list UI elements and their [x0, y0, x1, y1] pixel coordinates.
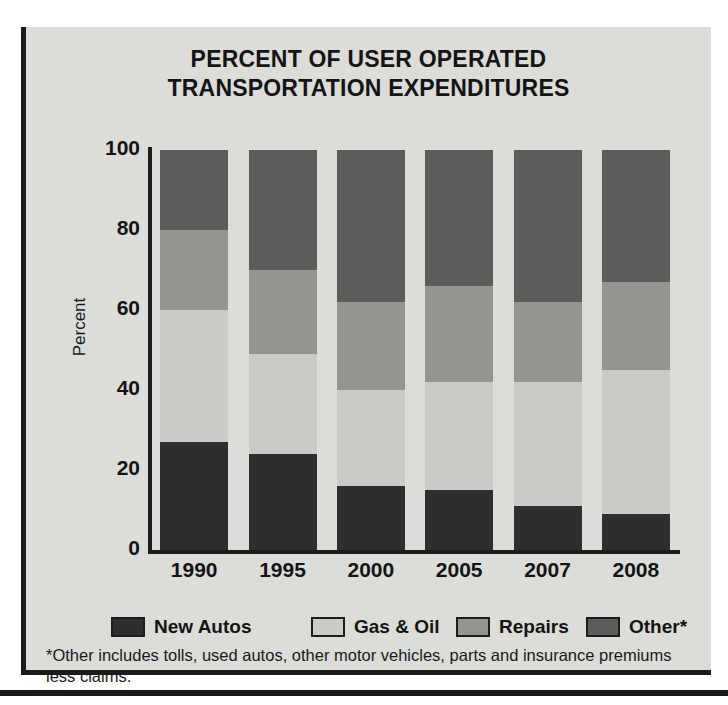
stacked-bar[interactable] — [160, 150, 228, 550]
legend-item[interactable]: New Autos — [111, 614, 251, 640]
x-axis-line — [148, 550, 680, 554]
stacked-bar[interactable] — [249, 150, 317, 550]
legend-label: Gas & Oil — [354, 616, 440, 638]
y-axis-tick-label: 100 — [62, 136, 140, 160]
bar-group — [514, 150, 582, 550]
bar-group — [425, 150, 493, 550]
chart-page: PERCENT OF USER OPERATED TRANSPORTATION … — [0, 0, 728, 705]
legend-item[interactable]: Gas & Oil — [311, 614, 440, 640]
stacked-bar[interactable] — [514, 150, 582, 550]
bar-segment[interactable] — [337, 302, 405, 390]
legend-label: New Autos — [154, 616, 251, 638]
bar-segment[interactable] — [425, 150, 493, 286]
bar-segment[interactable] — [249, 354, 317, 454]
bar-segment[interactable] — [425, 382, 493, 490]
x-axis-ticks: 199019952000200520072008 — [150, 558, 680, 588]
bar-segment[interactable] — [337, 486, 405, 550]
bar-segment[interactable] — [337, 150, 405, 302]
legend-swatch-icon — [586, 617, 620, 637]
chart-legend: New AutosGas & OilRepairsOther* — [26, 614, 711, 644]
x-axis-tick-label: 2007 — [503, 558, 591, 582]
bar-segment[interactable] — [425, 286, 493, 382]
y-axis-tick-label: 60 — [62, 296, 140, 320]
bar-segment[interactable] — [514, 302, 582, 382]
bar-group — [602, 150, 670, 550]
chart-title-line-1: PERCENT OF USER OPERATED — [26, 45, 711, 74]
legend-swatch-icon — [456, 617, 490, 637]
y-axis-tick-label: 20 — [62, 456, 140, 480]
bar-segment[interactable] — [514, 150, 582, 302]
chart-title: PERCENT OF USER OPERATED TRANSPORTATION … — [26, 45, 711, 103]
legend-swatch-icon — [111, 617, 145, 637]
y-axis-ticks: 100806040200 — [62, 150, 140, 550]
x-axis-tick-label: 2008 — [592, 558, 680, 582]
bar-group — [160, 150, 228, 550]
legend-item[interactable]: Other* — [586, 614, 687, 640]
bar-segment[interactable] — [160, 442, 228, 550]
bar-segment[interactable] — [602, 150, 670, 282]
bar-group — [249, 150, 317, 550]
bar-segment[interactable] — [160, 150, 228, 230]
chart-title-line-2: TRANSPORTATION EXPENDITURES — [26, 74, 711, 103]
chart-footnote: *Other includes tolls, used autos, other… — [46, 645, 691, 687]
y-axis-tick-label: 80 — [62, 216, 140, 240]
legend-label: Repairs — [499, 616, 569, 638]
x-axis-tick-label: 2005 — [415, 558, 503, 582]
bar-plot-area — [150, 150, 680, 550]
bar-segment[interactable] — [425, 490, 493, 550]
legend-item[interactable]: Repairs — [456, 614, 569, 640]
page-bottom-rule — [0, 690, 728, 696]
bar-segment[interactable] — [160, 310, 228, 442]
stacked-bar[interactable] — [602, 150, 670, 550]
legend-swatch-icon — [311, 617, 345, 637]
x-axis-tick-label: 2000 — [327, 558, 415, 582]
bar-segment[interactable] — [249, 270, 317, 354]
x-axis-tick-label: 1995 — [238, 558, 326, 582]
chart-panel: PERCENT OF USER OPERATED TRANSPORTATION … — [26, 27, 711, 670]
bar-segment[interactable] — [514, 382, 582, 506]
bar-group — [337, 150, 405, 550]
bar-segment[interactable] — [160, 230, 228, 310]
bar-segment[interactable] — [337, 390, 405, 486]
bar-segment[interactable] — [249, 454, 317, 550]
bar-segment[interactable] — [602, 514, 670, 550]
bar-segment[interactable] — [602, 370, 670, 514]
bar-segment[interactable] — [249, 150, 317, 270]
y-axis-tick-label: 0 — [62, 536, 140, 560]
legend-label: Other* — [629, 616, 687, 638]
bar-segment[interactable] — [602, 282, 670, 370]
bar-segment[interactable] — [514, 506, 582, 550]
y-axis-tick-label: 40 — [62, 376, 140, 400]
x-axis-tick-label: 1990 — [150, 558, 238, 582]
stacked-bar[interactable] — [337, 150, 405, 550]
stacked-bar[interactable] — [425, 150, 493, 550]
